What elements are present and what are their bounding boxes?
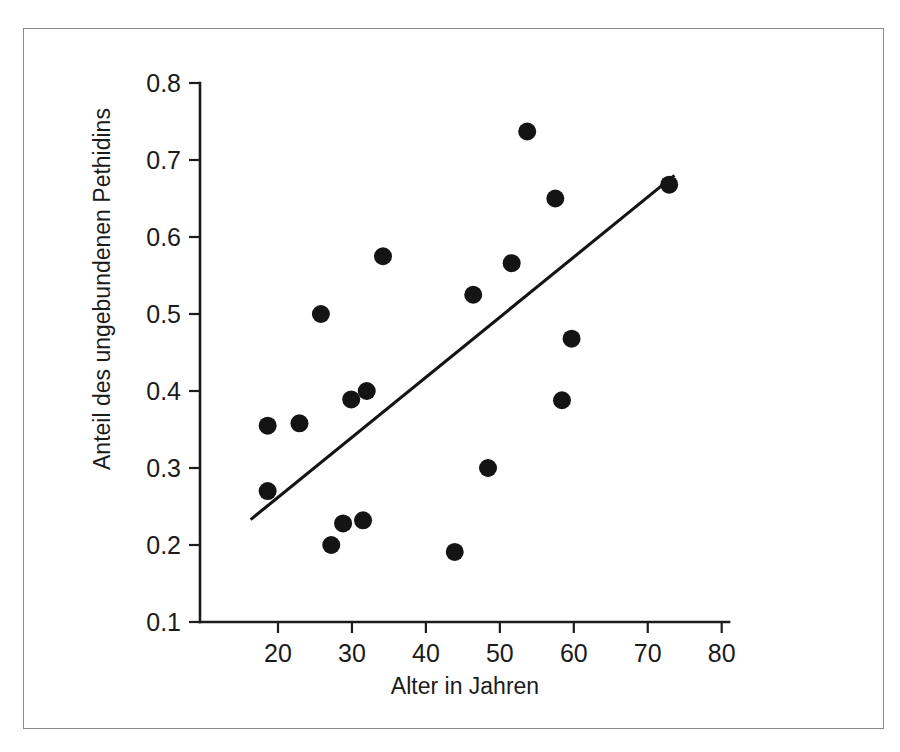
data-point <box>259 417 277 435</box>
data-point <box>464 286 482 304</box>
data-point <box>312 305 330 323</box>
y-tick-label: 0.2 <box>146 531 181 559</box>
data-point <box>518 123 536 141</box>
data-point <box>479 459 497 477</box>
x-axis-title: Alter in Jahren <box>391 673 539 699</box>
figure-root: 0.10.20.30.40.50.60.70.8 20304050607080 … <box>0 0 900 752</box>
y-tick-label: 0.8 <box>146 69 181 97</box>
x-tick-label: 60 <box>560 639 588 667</box>
data-point <box>503 254 521 272</box>
x-tick-label: 50 <box>486 639 514 667</box>
x-tick-label: 20 <box>264 639 292 667</box>
x-tick-label: 40 <box>412 639 440 667</box>
x-tick-label: 70 <box>634 639 662 667</box>
data-point <box>259 482 277 500</box>
y-tick-label: 0.6 <box>146 223 181 251</box>
trend-line <box>251 175 675 519</box>
data-point <box>358 382 376 400</box>
data-point <box>563 330 581 348</box>
data-point <box>290 414 308 432</box>
y-tick-label: 0.4 <box>146 377 181 405</box>
y-axis-title: Anteil des ungebundenen Pethidins <box>89 108 115 470</box>
x-tick-label: 30 <box>338 639 366 667</box>
data-point <box>553 391 571 409</box>
y-tick-label: 0.7 <box>146 146 181 174</box>
data-point <box>334 514 352 532</box>
data-point <box>374 247 392 265</box>
x-tick-label: 80 <box>708 639 736 667</box>
y-tick-labels: 0.10.20.30.40.50.60.70.8 <box>146 69 181 636</box>
data-point <box>342 390 360 408</box>
y-tick-label: 0.3 <box>146 454 181 482</box>
scatter-plot: 0.10.20.30.40.50.60.70.8 20304050607080 … <box>0 0 900 752</box>
data-point <box>322 536 340 554</box>
data-point <box>660 176 678 194</box>
data-point <box>446 543 464 561</box>
data-point <box>546 190 564 208</box>
data-point <box>354 511 372 529</box>
y-tick-label: 0.5 <box>146 300 181 328</box>
y-tick-label: 0.1 <box>146 608 181 636</box>
x-tick-labels: 20304050607080 <box>264 639 736 667</box>
regression-line <box>251 175 675 519</box>
